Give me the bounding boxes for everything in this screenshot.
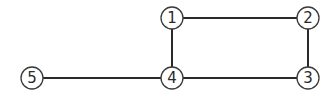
nodes: 1 2 3 4 5 bbox=[21, 7, 319, 89]
node-2-label: 2 bbox=[303, 9, 313, 27]
node-4: 4 bbox=[161, 67, 183, 89]
node-4-label: 4 bbox=[167, 69, 177, 87]
node-2: 2 bbox=[297, 7, 319, 29]
node-3: 3 bbox=[297, 67, 319, 89]
node-5: 5 bbox=[21, 67, 43, 89]
node-3-label: 3 bbox=[303, 69, 313, 87]
graph-diagram: 1 2 3 4 5 bbox=[0, 0, 334, 99]
node-1: 1 bbox=[161, 7, 183, 29]
node-5-label: 5 bbox=[27, 69, 37, 87]
node-1-label: 1 bbox=[167, 9, 177, 27]
